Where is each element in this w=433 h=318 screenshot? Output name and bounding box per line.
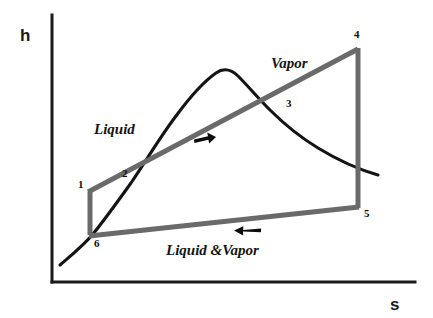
region-label-vapor: Vapor	[271, 56, 308, 71]
x-axis-label: s	[390, 296, 399, 313]
state-point-label-2: 2	[122, 168, 128, 179]
state-point-label-3: 3	[286, 98, 292, 109]
y-axis-label: h	[20, 27, 30, 44]
region-label-liquid: Liquid	[94, 122, 135, 137]
cycle-path-group	[88, 48, 359, 236]
state-point-label-4: 4	[354, 29, 360, 40]
process-5-to-6	[89, 207, 359, 236]
hs-diagram-canvas	[0, 0, 433, 318]
region-label-liquid-and-vapor: Liquid &Vapor	[166, 243, 259, 258]
hs-diagram-figure: h s Liquid Vapor Liquid &Vapor 1 2 3 4 5…	[0, 0, 433, 318]
state-point-label-5: 5	[364, 208, 370, 219]
state-point-label-1: 1	[78, 179, 84, 190]
state-point-label-6: 6	[94, 238, 100, 249]
arrow-left-icon	[234, 226, 261, 235]
